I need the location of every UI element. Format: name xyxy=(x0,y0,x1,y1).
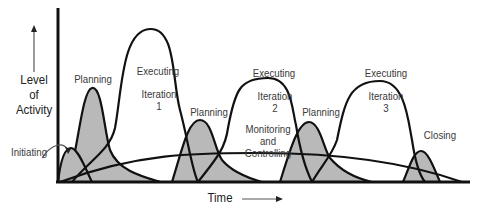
executing-2-label: Executing xyxy=(249,67,298,79)
planning-2-label: Planning xyxy=(187,106,231,118)
iteration-3-label: Iteration 3 xyxy=(364,90,408,114)
executing-1-label: Executing xyxy=(133,65,182,77)
x-arrowhead-icon xyxy=(276,196,283,202)
initiating-label: Initiating xyxy=(9,146,49,158)
executing-3-label: Executing xyxy=(361,67,410,79)
activity-diagram xyxy=(0,0,481,215)
x-axis-label: Time xyxy=(202,190,237,205)
y-arrowhead-icon xyxy=(31,25,37,32)
closing-label: Closing xyxy=(421,129,460,141)
planning-3-label: Planning xyxy=(299,106,343,118)
monitoring-controlling-label: Monitoring and Controlling xyxy=(240,123,296,159)
iteration-2-label: Iteration 2 xyxy=(253,90,297,114)
iteration-1-label: Iteration 1 xyxy=(137,88,181,112)
planning-1-label: Planning xyxy=(71,73,115,85)
y-axis-label: Level of Activity xyxy=(13,72,55,117)
